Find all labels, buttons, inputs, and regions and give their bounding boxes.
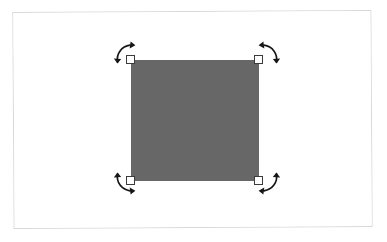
- handle-top-right[interactable]: [254, 55, 263, 64]
- app-root: [0, 0, 387, 242]
- selected-rectangle[interactable]: [131, 60, 259, 181]
- handle-bottom-left[interactable]: [126, 176, 135, 185]
- handle-top-left[interactable]: [126, 55, 135, 64]
- handle-bottom-right[interactable]: [254, 176, 263, 185]
